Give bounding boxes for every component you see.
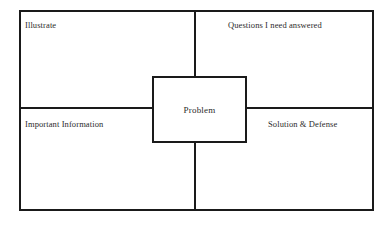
- quadrant-label-important-information: Important Information: [25, 119, 103, 129]
- vertical-divider-bottom: [194, 142, 196, 211]
- quadrant-label-illustrate: Illustrate: [25, 20, 56, 30]
- quadrant-label-questions: Questions I need answered: [228, 20, 322, 30]
- center-problem-box[interactable]: Problem: [152, 76, 247, 143]
- problem-solving-organizer: Illustrate Questions I need answered Imp…: [0, 0, 391, 225]
- vertical-divider-top: [194, 10, 196, 78]
- horizontal-divider-left: [19, 107, 153, 109]
- horizontal-divider-right: [246, 107, 374, 109]
- center-problem-label: Problem: [184, 105, 216, 115]
- quadrant-label-solution-defense: Solution & Defense: [268, 119, 337, 129]
